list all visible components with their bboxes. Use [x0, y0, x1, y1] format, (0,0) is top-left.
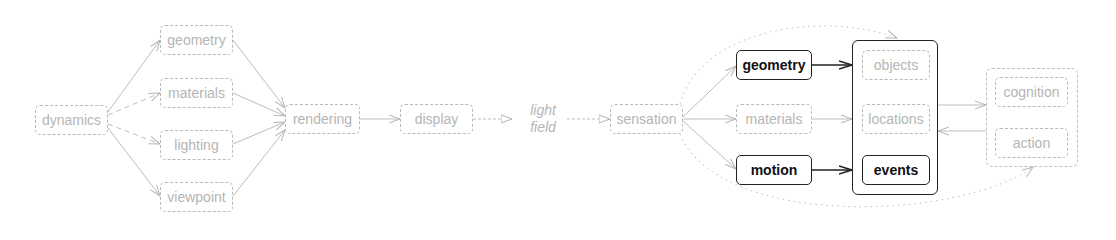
node-label: sensation — [617, 111, 677, 127]
node-action: action — [995, 128, 1068, 158]
node-label: geometry — [742, 57, 805, 73]
node-label: action — [1013, 135, 1050, 151]
node-sensation: sensation — [610, 104, 683, 134]
node-label: materials — [168, 85, 225, 101]
light-field-line2: field — [518, 119, 568, 136]
light-field-label: light field — [518, 102, 568, 136]
node-motion-feature: motion — [736, 155, 812, 185]
node-label: materials — [746, 111, 803, 127]
node-label: cognition — [1003, 84, 1059, 100]
light-field-line1: light — [518, 102, 568, 119]
node-lighting-factor: lighting — [160, 130, 233, 160]
node-label: viewpoint — [167, 189, 225, 205]
node-viewpoint-factor: viewpoint — [160, 182, 233, 212]
node-geometry-factor: geometry — [160, 25, 233, 55]
node-objects: objects — [862, 50, 930, 80]
node-materials-feature: materials — [736, 104, 812, 134]
node-label: rendering — [293, 111, 352, 127]
node-label: geometry — [167, 32, 225, 48]
node-materials-factor: materials — [160, 78, 233, 108]
node-label: display — [415, 111, 459, 127]
node-dynamics: dynamics — [35, 105, 108, 135]
node-label: lighting — [174, 137, 218, 153]
node-label: locations — [868, 111, 923, 127]
node-rendering: rendering — [285, 104, 360, 134]
node-label: motion — [751, 162, 798, 178]
node-label: events — [874, 162, 918, 178]
node-label: objects — [874, 57, 918, 73]
node-locations: locations — [862, 104, 930, 134]
node-geometry-feature: geometry — [736, 50, 812, 80]
node-cognition: cognition — [995, 77, 1068, 107]
node-events: events — [862, 155, 930, 185]
node-label: dynamics — [42, 112, 101, 128]
node-display: display — [400, 104, 473, 134]
